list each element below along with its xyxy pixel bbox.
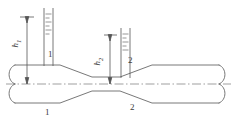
head-symbol-h2: h xyxy=(92,61,102,66)
head-subscript-h2: 2 xyxy=(97,58,104,61)
head-label-h2: h2 xyxy=(93,58,104,66)
tube-2-graduations xyxy=(123,34,129,50)
pipe-right-end-lower-arc xyxy=(219,84,225,103)
station-label-2-bottom: 2 xyxy=(130,103,135,112)
pipe-right-end-upper-arc xyxy=(219,65,225,84)
h2-arrowhead-bottom xyxy=(108,78,112,85)
station-label-2-top: 2 xyxy=(128,56,133,65)
head-label-h1: h1 xyxy=(11,40,22,48)
dimension-h2 xyxy=(104,35,117,85)
dimension-h1 xyxy=(20,17,34,85)
venturi-diagram: h1 h2 1 2 1 2 xyxy=(0,0,237,129)
head-symbol-h1: h xyxy=(10,43,20,48)
h1-arrowhead-top xyxy=(25,17,29,24)
venturi-drawing xyxy=(0,0,237,129)
pipe-lower-wall xyxy=(15,91,219,103)
head-subscript-h1: 1 xyxy=(15,40,22,43)
h1-arrowhead-bottom xyxy=(25,78,29,85)
tube-1-graduations xyxy=(46,14,52,34)
station-label-1-bottom: 1 xyxy=(45,108,50,117)
pipe-upper-wall xyxy=(15,65,219,77)
pipe-left-end-upper-arc xyxy=(9,65,15,84)
station-label-1-top: 1 xyxy=(48,50,53,59)
pipe-left-end-lower-arc xyxy=(9,84,15,103)
h2-arrowhead-top xyxy=(108,35,112,42)
piezometer-tube-2 xyxy=(121,28,130,78)
